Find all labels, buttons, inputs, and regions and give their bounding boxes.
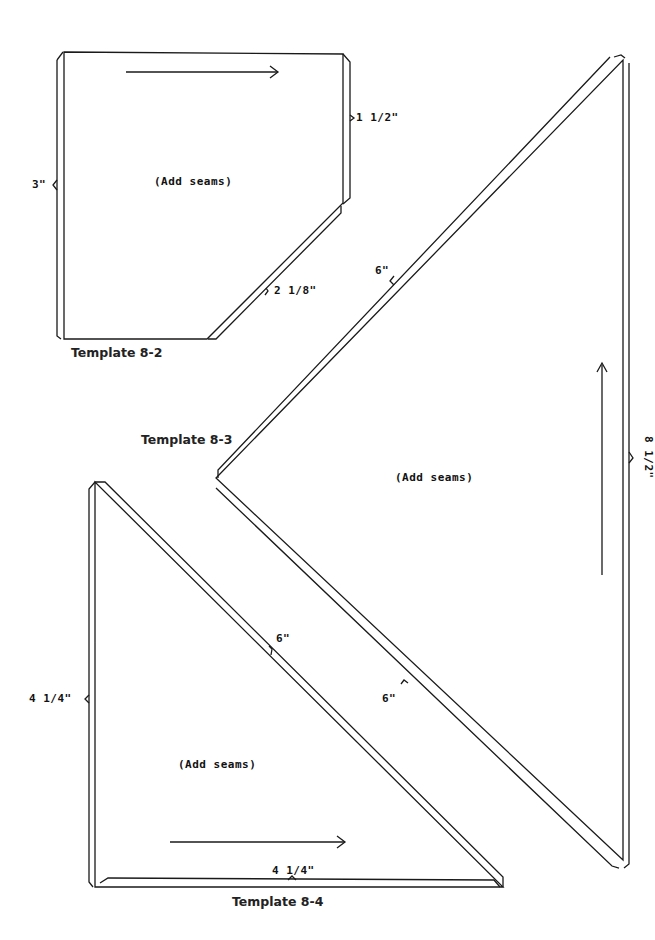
dimension-8-4-bottom: 4 1/4" — [272, 864, 315, 877]
dimension-8-3-lower-diagonal: 6" — [382, 692, 396, 705]
template-8-4-title: Template 8-4 — [232, 894, 323, 909]
dimension-8-2-right: 1 1/2" — [356, 111, 399, 124]
dimension-8-4-hypotenuse: 6" — [276, 632, 290, 645]
grain-arrow-8-2 — [126, 66, 278, 78]
template-8-3-shape — [216, 55, 633, 868]
add-seams-note-8-3: (Add seams) — [395, 471, 473, 484]
grain-arrow-8-4 — [170, 836, 345, 848]
template-8-3-title: Template 8-3 — [141, 432, 232, 447]
add-seams-note-8-4: (Add seams) — [178, 758, 256, 771]
template-8-2-title: Template 8-2 — [71, 345, 162, 360]
dimension-8-3-upper-diagonal: 6" — [375, 264, 389, 277]
dimension-8-3-right: 8 1/2" — [642, 436, 655, 479]
dimension-8-2-diagonal: 2 1/8" — [274, 284, 317, 297]
grain-arrow-8-3 — [597, 363, 607, 575]
dimension-8-2-left: 3" — [32, 178, 46, 191]
dimension-8-4-left: 4 1/4" — [29, 692, 72, 705]
quilt-template-sheet: 3" 1 1/2" 2 1/8" (Add seams) Template 8-… — [0, 0, 655, 940]
add-seams-note-8-2: (Add seams) — [154, 175, 232, 188]
template-8-4-shape — [85, 482, 503, 887]
template-outlines — [0, 0, 655, 940]
